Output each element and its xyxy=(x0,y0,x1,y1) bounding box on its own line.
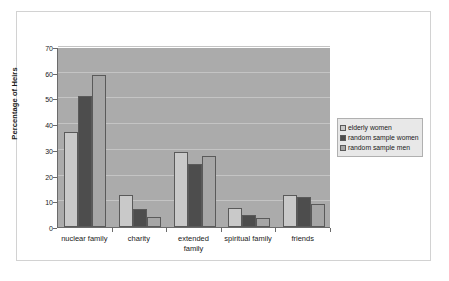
bar-group xyxy=(64,48,106,227)
bar[interactable] xyxy=(188,164,202,227)
bar[interactable] xyxy=(133,209,147,227)
bar-group xyxy=(228,48,270,227)
y-axis-title: Percentage of Heirs xyxy=(10,59,19,149)
x-tick-mark xyxy=(112,228,113,232)
bar[interactable] xyxy=(119,195,133,227)
y-tick-mark xyxy=(53,177,57,178)
bar[interactable] xyxy=(228,208,242,227)
y-tick-label: 50 xyxy=(33,96,53,103)
bar[interactable] xyxy=(147,217,161,227)
bar[interactable] xyxy=(64,132,78,227)
x-tick-mark xyxy=(330,228,331,232)
y-tick-label: 60 xyxy=(33,70,53,77)
y-tick-label: 0 xyxy=(33,225,53,232)
bar-group xyxy=(174,48,216,227)
y-tick-label: 70 xyxy=(33,45,53,52)
y-tick-label: 30 xyxy=(33,147,53,154)
bar[interactable] xyxy=(242,215,256,227)
bar[interactable] xyxy=(311,204,325,227)
legend-swatch-icon xyxy=(340,135,346,141)
legend-item[interactable]: random sample women xyxy=(340,133,419,142)
legend-item[interactable]: random sample men xyxy=(340,143,419,152)
y-tick-mark xyxy=(53,99,57,100)
bar[interactable] xyxy=(174,152,188,227)
gridline xyxy=(58,46,330,47)
chart-page: Percentage of Heirs 010203040506070 elde… xyxy=(0,0,449,281)
x-tick-label-line: friends xyxy=(258,234,348,244)
x-tick-label-line: family xyxy=(149,244,239,254)
bar[interactable] xyxy=(297,197,311,227)
bar[interactable] xyxy=(256,218,270,227)
y-tick-label: 40 xyxy=(33,122,53,129)
y-tick-mark xyxy=(53,151,57,152)
bar[interactable] xyxy=(78,96,92,227)
y-tick-label: 10 xyxy=(33,199,53,206)
y-tick-mark xyxy=(53,125,57,126)
bar[interactable] xyxy=(92,75,106,227)
bar-chart: Percentage of Heirs 010203040506070 elde… xyxy=(0,0,449,281)
bar[interactable] xyxy=(283,195,297,227)
bar[interactable] xyxy=(202,156,216,227)
y-tick-mark xyxy=(53,228,57,229)
x-tick-mark xyxy=(166,228,167,232)
legend-label: random sample women xyxy=(348,134,419,141)
y-axis-labels: 010203040506070 xyxy=(31,48,53,228)
x-tick-label: friends xyxy=(258,234,348,244)
legend-item[interactable]: elderly women xyxy=(340,123,419,132)
x-tick-mark xyxy=(221,228,222,232)
y-tick-mark xyxy=(53,48,57,49)
bar-group xyxy=(283,48,325,227)
y-tick-label: 20 xyxy=(33,173,53,180)
legend-label: random sample men xyxy=(348,144,410,151)
legend-label: elderly women xyxy=(348,124,392,131)
x-tick-mark xyxy=(275,228,276,232)
bar-group xyxy=(119,48,161,227)
chart-legend: elderly womenrandom sample womenrandom s… xyxy=(337,118,423,157)
legend-swatch-icon xyxy=(340,125,346,131)
y-tick-mark xyxy=(53,74,57,75)
y-tick-mark xyxy=(53,202,57,203)
plot-area xyxy=(57,48,330,228)
legend-swatch-icon xyxy=(340,145,346,151)
